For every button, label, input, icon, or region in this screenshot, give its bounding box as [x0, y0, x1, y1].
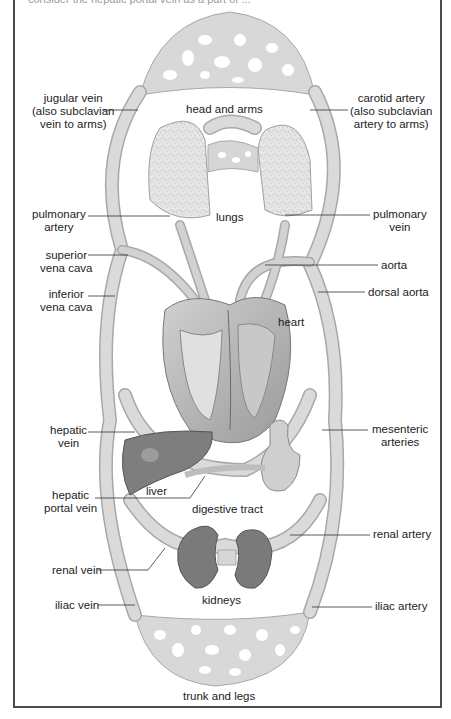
label-pulmonary-vein: pulmonary vein — [373, 208, 427, 234]
label-head-and-arms: head and arms — [186, 103, 263, 116]
heart — [163, 298, 291, 443]
label-hepatic-vein: hepatic vein — [50, 424, 87, 450]
kidneys — [178, 526, 272, 588]
label-digestive-tract: digestive tract — [192, 503, 263, 516]
label-kidneys: kidneys — [202, 594, 241, 607]
label-iliac-vein: iliac vein — [55, 599, 99, 612]
label-hepatic-portal-vein: hepatic portal vein — [44, 489, 97, 515]
label-carotid-artery: carotid artery (also subclavian artery t… — [350, 92, 432, 131]
label-superior-vena-cava: superior vena cava — [40, 249, 92, 275]
label-jugular-vein: jugular vein (also subclavian vein to ar… — [32, 92, 114, 131]
lungs — [149, 121, 312, 218]
head-capillary-bed — [140, 12, 315, 95]
trunk-capillary-bed — [135, 612, 310, 686]
label-aorta: aorta — [381, 259, 407, 272]
label-liver: liver — [146, 485, 167, 498]
label-trunk-and-legs: trunk and legs — [183, 690, 255, 703]
label-inferior-vena-cava: inferior vena cava — [40, 288, 92, 314]
label-renal-artery: renal artery — [373, 528, 431, 541]
label-iliac-artery: iliac artery — [375, 600, 427, 613]
label-heart: heart — [278, 316, 304, 329]
label-pulmonary-artery: pulmonary artery — [32, 208, 86, 234]
label-renal-vein: renal vein — [52, 564, 102, 577]
label-dorsal-aorta: dorsal aorta — [368, 286, 429, 299]
label-mesenteric-arteries: mesenteric arteries — [372, 423, 428, 449]
label-lungs: lungs — [216, 211, 244, 224]
